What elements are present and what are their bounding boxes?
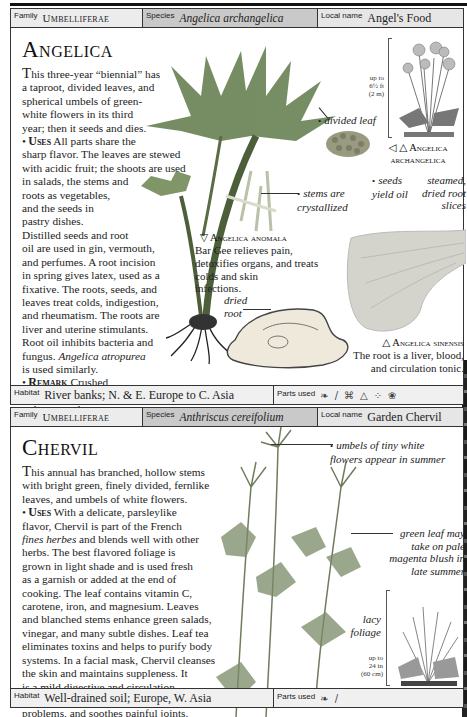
top-rule (10, 3, 467, 6)
habitat-value: River banks; N. & E. Europe to C. Asia (44, 388, 234, 403)
parts-used-icons: ❧ / ⌘ △ ⁘ ❀ (320, 390, 396, 401)
family-cell: Family Umbelliferae (11, 9, 143, 27)
uses-label: Uses (28, 134, 51, 148)
chervil-line-drawing (393, 597, 463, 687)
oil-icon: △ (360, 390, 368, 401)
parts-used-cell: Parts used ❧ / (274, 689, 463, 707)
caption-divided-leaf: divided leaf (318, 114, 376, 128)
habitat-value: Well-drained soil; Europe, W. Asia (44, 691, 211, 706)
local-name-label: Local name (321, 11, 362, 20)
family-value: Umbelliferae (43, 12, 110, 24)
chervil-footer-bar: Habitat Well-drained soil; Europe, W. As… (10, 688, 464, 708)
stems-leader (261, 193, 299, 194)
caption-umbels: umbels of tiny white flowers appear in s… (330, 439, 445, 465)
uses-label: Uses (28, 505, 51, 519)
dropcap: T (22, 463, 31, 479)
entry-title: Chervil (22, 435, 98, 461)
local-name-value: Angel's Food (367, 11, 431, 26)
height-scale-label: up to 24 in (60 cm) (351, 654, 383, 678)
height-scale-bar (388, 38, 392, 138)
chervil-entry: Chervil This annual has branched, hollow… (10, 427, 464, 689)
caption-lacy-foliage: lacy foliage (341, 613, 381, 638)
anomala-name: ▽ Angelica anomala (200, 232, 287, 244)
family-label: Family (14, 410, 38, 419)
steamed-root-slice-illustration (346, 228, 466, 338)
anomala-description: Bar Gee relieves pain, detoxifies organs… (195, 244, 318, 295)
seeds-icon: ⁘ (374, 390, 382, 401)
leaf-icon: ❧ (320, 693, 328, 704)
illustration-label: ◁ △ Angelica archangelica (373, 142, 463, 166)
species-value: Angelica archangelica (179, 12, 283, 24)
caption-green-leaf: green leaf may take on pale magenta blus… (381, 527, 465, 577)
species-cell: Species Angelica archangelica (143, 9, 318, 27)
caption-stems: stems are crystallized (297, 187, 348, 213)
family-label: Family (14, 11, 38, 20)
local-name-cell: Local name Garden Chervil (318, 408, 463, 426)
angelica-archangelica-drawing (394, 38, 464, 138)
species-value: Anthriscus cereifolium (179, 411, 283, 423)
local-name-value: Garden Chervil (367, 410, 441, 425)
flower-icon: ❀ (388, 390, 396, 401)
entry-title: Angelica (22, 37, 113, 63)
species-label: Species (146, 11, 174, 20)
uses-italic: fines herbes (22, 533, 76, 545)
stem-icon: / (335, 693, 338, 704)
habitat-label: Habitat (14, 691, 39, 700)
leaf-icon: ❧ (320, 390, 328, 401)
caption-steamed-root: steamed, dried root slices (406, 174, 466, 212)
chervil-header-bar: Family Umbelliferae Species Anthriscus c… (10, 407, 464, 427)
stem-icon: / (335, 390, 338, 401)
caption-seeds: seeds yield oil (372, 174, 408, 200)
parts-used-cell: Parts used ❧ / ⌘ △ ⁘ ❀ (274, 386, 463, 404)
family-value: Umbelliferae (43, 411, 110, 423)
seeds-illustration (323, 124, 373, 164)
chervil-body-text: This annual has branched, hollow stems w… (22, 465, 222, 717)
parts-used-label: Parts used (277, 389, 315, 398)
habitat-label: Habitat (14, 388, 39, 397)
intro-text: his annual has branched, hollow stems wi… (22, 466, 209, 505)
height-scale-bar (386, 590, 390, 686)
angelica-footer-bar: Habitat River banks; N. & E. Europe to C… (10, 385, 464, 405)
local-name-cell: Local name Angel's Food (318, 9, 463, 27)
local-name-label: Local name (321, 410, 362, 419)
dropcap: T (22, 65, 31, 81)
habitat-cell: Habitat Well-drained soil; Europe, W. As… (11, 689, 274, 707)
parts-used-label: Parts used (277, 692, 315, 701)
angelica-entry: Angelica This three-year “biennial” has … (10, 28, 464, 386)
parts-used-icons: ❧ / (320, 693, 338, 704)
height-scale-label: up to 6½ ft (2 m) (356, 74, 384, 98)
angelica-header-bar: Family Umbelliferae Species Angelica arc… (10, 8, 464, 28)
species-cell: Species Anthriscus cereifolium (143, 408, 318, 426)
species-label: Species (146, 410, 174, 419)
root-icon: ⌘ (344, 390, 354, 401)
habitat-cell: Habitat River banks; N. & E. Europe to C… (11, 386, 274, 404)
uses-tail: is used similarly. (22, 363, 98, 375)
umbels-leader (271, 444, 333, 445)
family-cell: Family Umbelliferae (11, 408, 143, 426)
sinensis-name: △ Angelica sinensis (360, 337, 464, 349)
sinensis-description: The root is a liver, blood, and circulat… (311, 349, 464, 375)
